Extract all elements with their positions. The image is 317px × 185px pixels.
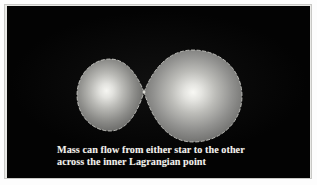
right-roche-lobe [144,50,242,142]
figure-caption: Mass can flow from either star to the ot… [57,144,272,167]
figure-panel: Mass can flow from either star to the ot… [7,6,310,178]
caption-line-1: Mass can flow from either star to the ot… [57,144,272,156]
right-lobe-fill [144,50,242,142]
caption-line-2: across the inner Lagrangian point [57,156,272,168]
left-lobe-fill [77,59,144,131]
left-roche-lobe [77,59,144,131]
figure-root: Mass can flow from either star to the ot… [0,0,317,185]
